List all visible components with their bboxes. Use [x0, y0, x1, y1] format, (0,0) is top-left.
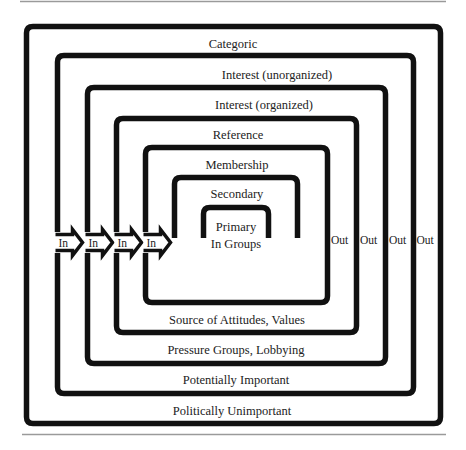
out-label-interest-organized: Out: [360, 234, 378, 246]
label-interest-unorganized: Interest (unorganized): [222, 68, 333, 82]
in-label-interest-unorganized: In: [89, 237, 99, 249]
label-pressure-groups: Pressure Groups, Lobbying: [167, 343, 305, 357]
in-label-reference: In: [147, 237, 157, 249]
label-politically-unimportant: Politically Unimportant: [173, 404, 292, 418]
label-source-of-attitudes: Source of Attitudes, Values: [169, 313, 305, 327]
in-label-interest-organized: In: [118, 237, 128, 249]
label-reference: Reference: [213, 128, 264, 142]
label-in-groups: In Groups: [211, 237, 261, 251]
out-label-reference: Out: [331, 234, 349, 246]
out-label-interest-unorganized: Out: [389, 234, 407, 246]
out-label-categoric: Out: [417, 234, 435, 246]
label-interest-organized: Interest (organized): [215, 98, 313, 112]
label-potentially-important: Potentially Important: [183, 373, 290, 387]
label-categoric: Categoric: [209, 37, 258, 51]
label-membership: Membership: [205, 158, 268, 172]
in-label-categoric: In: [59, 237, 69, 249]
label-secondary: Secondary: [211, 187, 265, 201]
label-primary: Primary: [216, 220, 257, 234]
nested-groups-diagram: InInInIn Categoric Interest (unorganized…: [0, 0, 466, 450]
